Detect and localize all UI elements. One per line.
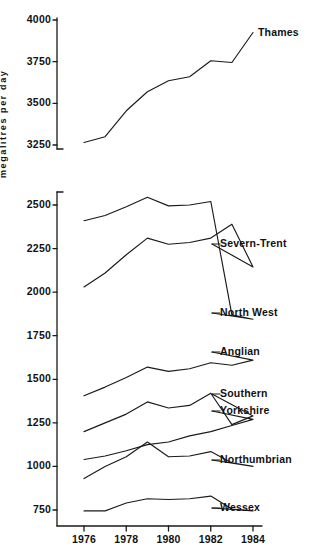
upper-y-tick-label-3500: 3500 (11, 96, 51, 108)
lower-y-tick-label-1750: 1750 (11, 329, 51, 341)
x-tick-label-1982: 1982 (189, 533, 233, 545)
upper-y-tick-label-3750: 3750 (11, 55, 51, 67)
x-tick-label-1980: 1980 (147, 533, 191, 545)
series-label-southern: Southern (220, 387, 268, 399)
series-label-thames: Thames (258, 26, 299, 38)
upper-y-tick-label-3250: 3250 (11, 138, 51, 150)
upper-y-tick-label-4000: 4000 (11, 13, 51, 25)
x-tick-label-1984: 1984 (231, 533, 275, 545)
series-line-north-west (84, 197, 253, 319)
lower-y-tick-label-750: 750 (11, 503, 51, 515)
lower-y-tick-label-2500: 2500 (11, 198, 51, 210)
series-label-wessex: Wessex (220, 501, 260, 513)
lower-y-tick-label-2000: 2000 (11, 285, 51, 297)
lower-y-tick-label-1500: 1500 (11, 372, 51, 384)
x-tick-label-1976: 1976 (62, 533, 106, 545)
series-label-north-west: North West (220, 306, 278, 318)
series-label-anglian: Anglian (220, 345, 260, 357)
series-label-yorkshire: Yorkshire (220, 404, 269, 416)
series-line-severn-trent (84, 224, 253, 287)
lower-y-tick-label-2250: 2250 (11, 242, 51, 254)
series-line-thames (84, 33, 253, 143)
series-label-severn-trent: Severn-Trent (220, 237, 287, 249)
lower-y-tick-label-1000: 1000 (11, 459, 51, 471)
x-tick-label-1978: 1978 (104, 533, 148, 545)
lower-y-tick-label-1250: 1250 (11, 416, 51, 428)
series-label-northumbrian: Northumbrian (220, 453, 292, 465)
chart-figure: megalitres per day 3250350037504000Thame… (0, 0, 333, 550)
